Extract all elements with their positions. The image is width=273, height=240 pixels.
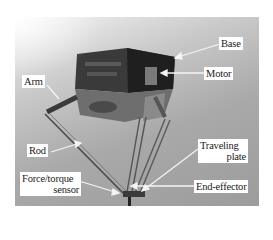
end-effector-shape xyxy=(128,197,131,206)
label-motor: Motor xyxy=(204,67,233,80)
label-force-torque-sensor: Force/torque sensor xyxy=(20,172,81,196)
arm-shape xyxy=(47,97,77,112)
label-end-effector: End-effector xyxy=(194,180,248,193)
label-arm: Arm xyxy=(22,75,45,88)
label-sensor-line1: Force/torque xyxy=(22,173,73,184)
label-base: Base xyxy=(219,37,243,50)
motor-shape xyxy=(145,67,157,85)
label-traveling-plate: Traveling plate xyxy=(198,139,248,163)
label-traveling-plate-line1: Traveling xyxy=(200,140,239,151)
label-sensor-line2: sensor xyxy=(22,184,79,195)
label-traveling-plate-line2: plate xyxy=(200,151,246,162)
label-rod: Rod xyxy=(27,144,48,157)
traveling-plate-shape xyxy=(123,191,145,197)
